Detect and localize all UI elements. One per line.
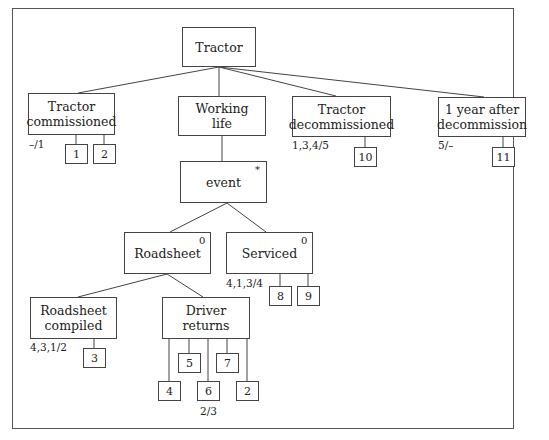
leaf-leaf-2b: 2 [236,381,259,401]
leaf-leaf-5: 5 [178,353,201,373]
node-label: Workinglife [195,101,248,131]
node-working-life: Workinglife [178,96,266,136]
edge-event-serviced [227,203,266,232]
selection-marker: 0 [199,235,205,246]
edge-tractor-after-decommission [219,67,484,97]
node-label: Driverreturns [183,303,230,333]
iteration-marker: * [255,164,260,175]
annotation-commissioned: –/1 [29,138,44,150]
leaf-leaf-9: 9 [297,286,320,306]
node-label: Roadsheet [134,246,201,261]
edge-roadsheet-roadsheet-compiled [78,274,167,297]
annotation-roadsheet-compiled: 4,3,1/2 [30,341,67,353]
leaf-leaf-6: 6 [197,381,220,401]
selection-marker: 0 [301,235,307,246]
annotation-leaf-6: 2/3 [200,405,217,417]
annotation-serviced: 4,1,3/4 [226,277,263,289]
leaf-leaf-11: 11 [492,147,515,167]
node-roadsheet: Roadsheet [124,232,211,274]
node-event: event [180,161,267,203]
node-label: Tractorcommissioned [26,99,116,129]
node-decommissioned: Tractordecommissioned [292,96,391,137]
edge-tractor-decommissioned [219,67,336,96]
node-serviced: Serviced [226,232,313,274]
node-roadsheet-compiled: Roadsheetcompiled [30,297,117,339]
edge-event-roadsheet [170,203,227,232]
leaf-leaf-7: 7 [216,353,239,373]
annotation-decommissioned: 1,3,4/5 [292,139,329,151]
leaf-leaf-2a: 2 [93,144,116,164]
node-tractor: Tractor [182,27,256,67]
node-label: Serviced [242,246,297,261]
node-after-decommission: 1 year afterdecommission [438,97,526,137]
node-label: event [206,175,241,190]
node-commissioned: Tractorcommissioned [28,93,115,135]
node-label: Tractor [195,40,242,55]
node-label: Tractordecommissioned [289,102,394,132]
node-label: 1 year afterdecommission [437,102,527,132]
diagram-canvas: TractorTractorcommissioned–/1Workinglife… [0,0,549,440]
edge-tractor-commissioned [78,67,219,93]
leaf-leaf-1: 1 [65,144,88,164]
leaf-leaf-4: 4 [158,381,181,401]
annotation-after-decommission: 5/– [438,139,453,151]
leaf-leaf-3: 3 [83,348,106,368]
tree-edges [0,0,549,440]
node-driver-returns: Driverreturns [162,297,250,339]
edge-roadsheet-driver-returns [167,274,203,297]
leaf-leaf-8: 8 [269,286,292,306]
node-label: Roadsheetcompiled [40,303,107,333]
leaf-leaf-10: 10 [354,147,377,167]
